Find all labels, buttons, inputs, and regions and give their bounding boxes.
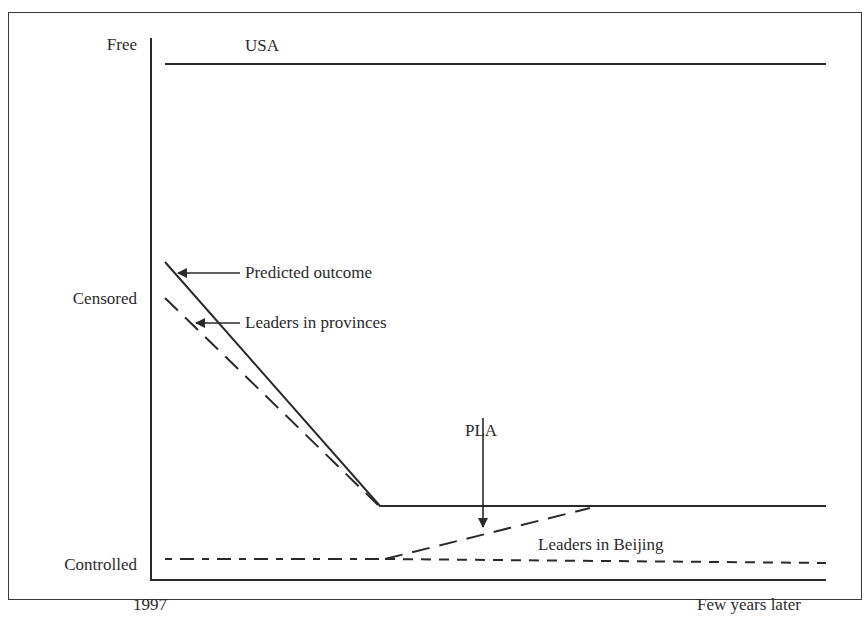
label-leaders-in-provinces: Leaders in provinces	[245, 314, 387, 331]
y-label-free: Free	[7, 36, 137, 53]
label-usa: USA	[245, 37, 279, 54]
diagram-canvas	[0, 0, 865, 637]
x-label-end: Few years later	[697, 596, 801, 613]
x-label-start: 1997	[133, 596, 167, 613]
leaders-in-beijing-line-cont	[385, 559, 826, 563]
y-label-controlled: Controlled	[7, 556, 137, 573]
label-predicted-outcome: Predicted outcome	[245, 264, 372, 281]
label-pla: PLA	[465, 422, 497, 439]
predicted-outcome-line	[165, 262, 826, 506]
label-leaders-in-beijing: Leaders in Beijing	[538, 536, 664, 553]
y-label-censored: Censored	[7, 290, 137, 307]
